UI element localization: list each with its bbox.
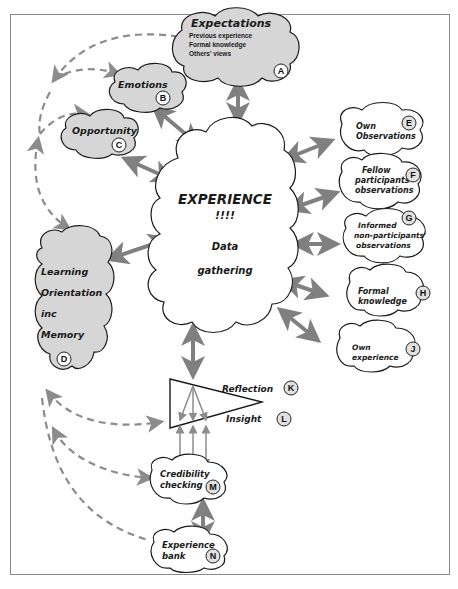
expectations-line-2: Formal knowledge: [189, 41, 246, 49]
learning-line-4: Memory: [41, 329, 85, 340]
svg-text:G: G: [405, 213, 412, 223]
node-experience-center: [148, 117, 298, 332]
informed-line-2: non-participants': [354, 231, 426, 240]
own-experience-line-2: experience: [352, 353, 399, 362]
svg-text:J: J: [410, 344, 415, 354]
center-title: EXPERIENCE: [178, 191, 273, 207]
svg-text:L: L: [281, 414, 287, 424]
emotions-title: Emotions: [118, 79, 168, 90]
insight-label: Insight: [226, 414, 262, 424]
formal-knowledge-line-2: knowledge: [358, 297, 408, 306]
svg-text:K: K: [288, 383, 295, 393]
badge-a: A: [274, 64, 288, 78]
center-exclaim: !!!!: [215, 209, 235, 222]
badge-h: H: [416, 286, 430, 300]
own-observations-line-2: Observations: [356, 132, 416, 141]
badge-l: L: [277, 412, 291, 426]
expectations-title: Expectations: [191, 17, 272, 30]
badge-d: D: [57, 352, 71, 366]
badge-m: M: [206, 480, 220, 494]
svg-text:N: N: [210, 551, 217, 561]
svg-text:D: D: [61, 354, 68, 364]
experience-bank-line-1: Experience: [162, 540, 215, 550]
svg-text:E: E: [406, 118, 412, 128]
node-own-experience: [337, 320, 415, 372]
badge-k: K: [284, 381, 298, 395]
badge-g: G: [402, 211, 416, 225]
reflection-label: Reflection: [222, 384, 273, 394]
svg-text:F: F: [410, 170, 416, 180]
badge-f: F: [406, 168, 420, 182]
formal-knowledge-line-1: Formal: [358, 287, 389, 296]
expectations-line-1: Previous experience: [189, 32, 253, 40]
center-line-1: Data: [212, 241, 239, 252]
experience-bank-line-2: bank: [162, 551, 187, 561]
badge-n: N: [206, 549, 220, 563]
learning-line-2: Orientation: [41, 287, 102, 298]
badge-j: J: [406, 342, 420, 356]
fellow-line-1: Fellow: [362, 166, 391, 175]
badge-c: C: [112, 138, 126, 152]
fellow-line-2: participants: [354, 176, 410, 185]
informed-line-3: observations: [356, 241, 411, 250]
learning-line-1: Learning: [41, 266, 88, 277]
learning-line-3: inc: [41, 308, 57, 319]
credibility-line-1: Credibility: [160, 469, 210, 479]
badge-b: B: [156, 91, 170, 105]
svg-text:H: H: [420, 288, 427, 298]
opportunity-title: Opportunity: [72, 125, 138, 136]
fellow-line-3: observations: [355, 186, 414, 195]
center-line-2: gathering: [197, 265, 252, 276]
svg-text:M: M: [209, 482, 217, 492]
own-observations-line-1: Own: [356, 122, 376, 131]
diagram-canvas: Expectations Previous experience Formal …: [0, 0, 458, 589]
own-experience-line-1: Own: [352, 343, 371, 352]
informed-line-1: Informed: [358, 221, 397, 230]
svg-text:B: B: [160, 93, 167, 103]
svg-text:C: C: [116, 140, 123, 150]
expectations-line-3: Others' views: [189, 50, 231, 57]
badge-e: E: [402, 116, 416, 130]
credibility-line-2: checking: [160, 480, 203, 490]
svg-text:A: A: [278, 66, 285, 76]
